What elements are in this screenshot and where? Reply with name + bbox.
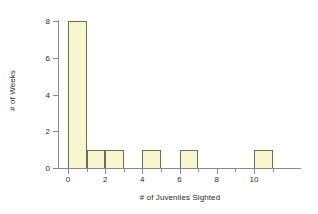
x-tick-label-2: 2 <box>103 175 108 184</box>
histogram-figure: 0 2 4 6 8 10 0 2 4 6 8 # of Juveniles Si… <box>0 0 318 214</box>
x-tick-2 <box>105 169 106 174</box>
x-tick-4 <box>142 169 143 174</box>
x-tick-label-10: 10 <box>249 175 258 184</box>
histogram-bar <box>68 21 87 169</box>
x-tick-minor-3 <box>124 169 125 172</box>
y-tick-8 <box>53 21 58 22</box>
y-tick-6 <box>53 58 58 59</box>
x-axis-title: # of Juveniles Sighted <box>0 193 318 202</box>
y-tick-4 <box>53 95 58 96</box>
y-tick-2 <box>53 131 58 132</box>
x-tick-label-4: 4 <box>140 175 145 184</box>
histogram-bar <box>87 150 106 169</box>
histogram-bar <box>105 150 124 169</box>
y-tick-0 <box>53 168 58 169</box>
x-tick-label-0: 0 <box>66 175 71 184</box>
y-axis-line <box>58 20 59 169</box>
histogram-bar <box>142 150 161 169</box>
x-tick-minor-11 <box>273 169 274 172</box>
y-tick-label-0: 0 <box>30 164 50 173</box>
y-tick-label-6: 6 <box>30 53 50 62</box>
histogram-bar <box>180 150 199 169</box>
x-tick-label-8: 8 <box>215 175 220 184</box>
plot-area: 0 2 4 6 8 10 0 2 4 6 8 # of Juveniles Si… <box>0 0 318 214</box>
y-tick-label-8: 8 <box>30 17 50 26</box>
x-tick-0 <box>68 169 69 174</box>
y-tick-label-2: 2 <box>30 127 50 136</box>
x-tick-minor-9 <box>235 169 236 172</box>
y-axis-title: # of Weeks <box>8 51 17 131</box>
histogram-bar <box>254 150 273 169</box>
x-tick-6 <box>180 169 181 174</box>
x-tick-label-6: 6 <box>177 175 182 184</box>
x-tick-8 <box>217 169 218 174</box>
x-tick-minor-5 <box>161 169 162 172</box>
x-tick-10 <box>254 169 255 174</box>
x-tick-minor-1 <box>87 169 88 172</box>
y-tick-label-4: 4 <box>30 90 50 99</box>
x-tick-minor-7 <box>198 169 199 172</box>
